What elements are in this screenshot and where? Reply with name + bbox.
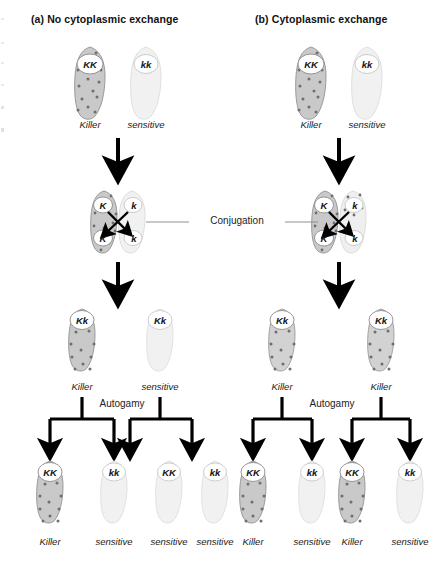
panel-b-exconjugant-2-phenotype: Killer bbox=[357, 381, 405, 392]
panel-b-parent-2-genotype: kk bbox=[347, 59, 387, 70]
diagram-canvas bbox=[0, 0, 439, 572]
paramecium-inheritance-diagram: (a) No cytoplasmic exchange (b) Cytoplas… bbox=[0, 0, 439, 572]
conjugation-label: Conjugation bbox=[189, 215, 285, 226]
panel-b-conj-right-nucleus-1: k bbox=[345, 200, 365, 211]
panel-b-conj-left-nucleus-2: K bbox=[314, 233, 334, 244]
panel-b-conj-right-nucleus-2: k bbox=[345, 233, 365, 244]
panel-a-progeny-1-phenotype: Killer bbox=[26, 536, 74, 547]
panel-b-parent-1-genotype: KK bbox=[291, 59, 331, 70]
panel-a-autogamy-label: Autogamy bbox=[86, 398, 158, 409]
panel-a-conj-left-nucleus-2: K bbox=[93, 233, 113, 244]
panel-a-exconjugant-2-phenotype: sensitive bbox=[130, 381, 190, 392]
panel-b-progeny-3-phenotype: Killer bbox=[328, 536, 376, 547]
panel-a-progeny-2-genotype: kk bbox=[94, 467, 134, 478]
panel-a-conj-left-nucleus-1: K bbox=[93, 200, 113, 211]
panel-a-parent-2-genotype: kk bbox=[126, 59, 166, 70]
panel-a-conj-right-nucleus-1: k bbox=[124, 200, 144, 211]
panel-a-progeny-2-phenotype: sensitive bbox=[84, 536, 144, 547]
panel-a-exconjugant-1-genotype: Kk bbox=[62, 315, 102, 326]
panel-a-parent-sensitive-cell bbox=[131, 47, 161, 119]
panel-a-progeny-1-genotype: KK bbox=[30, 467, 70, 478]
panel-a-parent-1-phenotype: Killer bbox=[66, 119, 114, 130]
panel-a-progeny-3-genotype: KK bbox=[149, 467, 189, 478]
panel-a-exconjugant-1-phenotype: Killer bbox=[58, 381, 106, 392]
panel-b-progeny-4-genotype: kk bbox=[390, 467, 430, 478]
panel-b-exconjugant-2-genotype: Kk bbox=[361, 315, 401, 326]
panel-a-parent-1-genotype: KK bbox=[70, 59, 110, 70]
panel-b-progeny-4-phenotype: sensitive bbox=[380, 536, 439, 547]
panel-b-parent-1-phenotype: Killer bbox=[287, 119, 335, 130]
panel-b-progeny-1-genotype: KK bbox=[233, 467, 273, 478]
panel-a-exconjugant-2-genotype: Kk bbox=[140, 315, 180, 326]
panel-a-progeny-4-genotype: kk bbox=[195, 467, 235, 478]
panel-b-exconjugant-1-phenotype: Killer bbox=[258, 381, 306, 392]
panel-a-parent-killer-cell bbox=[75, 47, 105, 119]
panel-a-conj-right-nucleus-2: k bbox=[124, 233, 144, 244]
panel-b-parent-killer-cell bbox=[296, 47, 326, 119]
panel-b-autogamy-label: Autogamy bbox=[296, 398, 368, 409]
panel-b-parent-sensitive-cell bbox=[352, 47, 382, 119]
panel-b-progeny-1-phenotype: Killer bbox=[229, 536, 277, 547]
panel-b-progeny-3-genotype: KK bbox=[332, 467, 372, 478]
panel-b-parent-2-phenotype: sensitive bbox=[337, 119, 397, 130]
panel-b-conj-left-nucleus-1: K bbox=[314, 200, 334, 211]
panel-a-parent-2-phenotype: sensitive bbox=[116, 119, 176, 130]
panel-b-progeny-2-genotype: kk bbox=[292, 467, 332, 478]
panel-b-exconjugant-1-genotype: Kk bbox=[262, 315, 302, 326]
